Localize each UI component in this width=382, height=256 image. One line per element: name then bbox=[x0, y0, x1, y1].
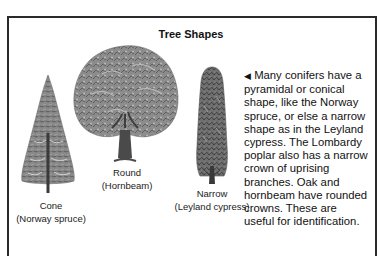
conical-tree-illustration bbox=[18, 73, 78, 195]
panel-title: Tree Shapes bbox=[0, 28, 382, 40]
description-body: Many conifers have a pyramidal or conica… bbox=[244, 69, 368, 227]
species-name: (Norway spruce) bbox=[8, 212, 94, 225]
narrow-tree-illustration bbox=[194, 66, 230, 188]
left-arrow-marker-icon: ◀ bbox=[244, 71, 251, 81]
round-tree-illustration bbox=[72, 44, 180, 164]
shape-name: Cone bbox=[8, 199, 94, 212]
tree-label-round: Round (Hornbeam) bbox=[84, 166, 170, 192]
shape-name: Round bbox=[84, 166, 170, 179]
species-name: (Hornbeam) bbox=[84, 179, 170, 192]
description-text: ◀ Many conifers have a pyramidal or coni… bbox=[244, 69, 378, 228]
tree-label-cone: Cone (Norway spruce) bbox=[8, 199, 94, 225]
